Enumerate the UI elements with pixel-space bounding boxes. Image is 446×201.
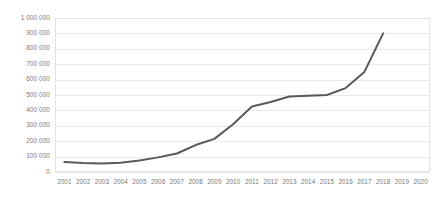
x-axis-tick-label: 2009 [207, 179, 221, 185]
x-axis-tick-label: 2004 [113, 179, 127, 185]
x-axis-tick-label: 2005 [132, 179, 146, 185]
x-axis-tick-label: 2002 [76, 179, 90, 185]
x-axis-tick-label: 2006 [151, 179, 165, 185]
y-axis-tick-label: 600 000 [0, 76, 50, 82]
x-axis-tick-label: 2003 [95, 179, 109, 185]
y-axis-tick-label: 500 000 [0, 92, 50, 98]
series-line [64, 33, 383, 163]
x-axis-tick-label: 2017 [357, 179, 371, 185]
x-axis-tick-label: 2020 [413, 179, 427, 185]
x-axis-tick-label: 2001 [57, 179, 71, 185]
y-axis-tick-label: 100 000 [0, 153, 50, 159]
x-axis-tick-label: 2012 [263, 179, 277, 185]
y-axis-tick-label: 900 000 [0, 30, 50, 36]
x-axis-tick-label: 2008 [188, 179, 202, 185]
y-axis-tick-label: 0 [0, 169, 50, 175]
y-axis-tick-label: 300 000 [0, 122, 50, 128]
line-chart: 0100 000200 000300 000400 000500 000600 … [0, 0, 446, 201]
x-axis-tick-label: 2015 [320, 179, 334, 185]
x-axis-tick-label: 2018 [376, 179, 390, 185]
y-axis-tick-label: 800 000 [0, 45, 50, 51]
y-axis-tick-labels: 0100 000200 000300 000400 000500 000600 … [0, 0, 50, 201]
series-line-layer [55, 18, 430, 172]
x-axis-tick-label: 2011 [245, 179, 259, 185]
y-axis-tick-label: 400 000 [0, 107, 50, 113]
y-axis-tick-label: 1 000 000 [0, 15, 50, 21]
x-axis-tick-label: 2010 [226, 179, 240, 185]
y-axis-tick-label: 200 000 [0, 138, 50, 144]
y-axis-tick-label: 700 000 [0, 61, 50, 67]
x-axis-tick-label: 2007 [170, 179, 184, 185]
x-axis-tick-labels: 2001200220032004200520062007200820092010… [55, 179, 430, 193]
x-axis-tick-label: 2013 [282, 179, 296, 185]
x-axis-tick-label: 2014 [301, 179, 315, 185]
x-axis-tick-label: 2019 [395, 179, 409, 185]
x-axis-tick-label: 2016 [338, 179, 352, 185]
gridline [55, 172, 430, 173]
